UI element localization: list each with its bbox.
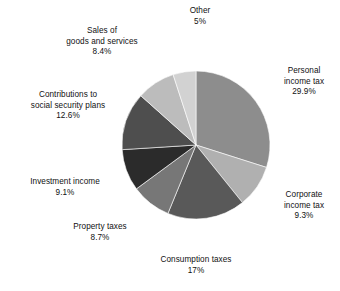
slice-label-investment-income: Investment income 9.1% [10, 177, 120, 198]
slice-label-personal-income-tax: Personal income tax 29.9% [272, 66, 336, 98]
slice-label-sales-line1: Sales of [44, 26, 160, 37]
slice-label-personal-line1: Personal [272, 66, 336, 77]
slice-label-consumption-line1: Consumption taxes [136, 255, 256, 266]
slice-label-other-line1: Other [170, 6, 230, 17]
slice-label-personal-value: 29.9% [272, 87, 336, 98]
slice-label-contributions-value: 12.6% [6, 111, 130, 122]
slice-label-contributions-line2: social security plans [6, 101, 130, 112]
slice-label-personal-line2: income tax [272, 77, 336, 88]
slice-label-contributions-to-social-security-plans: Contributions to social security plans 1… [6, 90, 130, 122]
slice-label-investment-value: 9.1% [10, 188, 120, 199]
slice-label-corporate-line2: income tax [272, 201, 336, 212]
slice-label-consumption-value: 17% [136, 266, 256, 277]
slice-label-corporate-line1: Corporate [272, 190, 336, 201]
slice-label-property-taxes: Property taxes 8.7% [48, 222, 152, 243]
slice-label-property-line1: Property taxes [48, 222, 152, 233]
slice-label-sales-value: 8.4% [44, 47, 160, 58]
slice-label-corporate-income-tax: Corporate income tax 9.3% [272, 190, 336, 222]
slice-label-corporate-value: 9.3% [272, 211, 336, 222]
slice-label-consumption-taxes: Consumption taxes 17% [136, 255, 256, 276]
slice-label-other: Other 5% [170, 6, 230, 27]
slice-label-investment-line1: Investment income [10, 177, 120, 188]
slice-label-sales-of-goods-and-services: Sales of goods and services 8.4% [44, 26, 160, 58]
slice-label-sales-line2: goods and services [44, 37, 160, 48]
pie-chart-figure: Other 5% Sales of goods and services 8.4… [0, 0, 340, 291]
slice-label-property-value: 8.7% [48, 233, 152, 244]
slice-label-other-value: 5% [170, 17, 230, 28]
pie-slices-group [122, 71, 270, 219]
slice-label-contributions-line1: Contributions to [6, 90, 130, 101]
